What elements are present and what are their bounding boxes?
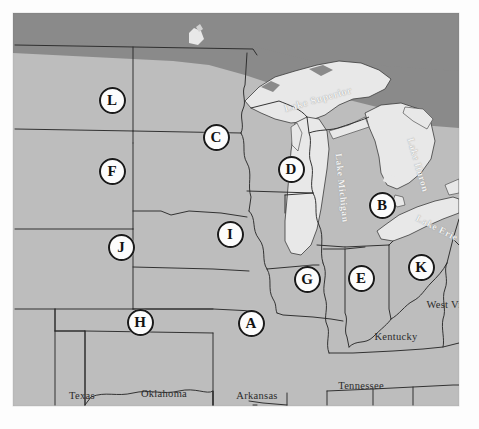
marker-h[interactable]: H bbox=[127, 309, 154, 336]
marker-j-letter: J bbox=[117, 239, 125, 254]
marker-c[interactable]: C bbox=[203, 124, 230, 151]
marker-b-letter: B bbox=[377, 197, 387, 212]
map-figure: Lake Superior Lake Michigan Lake Huron L… bbox=[0, 0, 479, 429]
marker-l-letter: L bbox=[107, 92, 117, 107]
marker-e-letter: E bbox=[356, 270, 366, 285]
label-tennessee: Tennessee bbox=[338, 380, 384, 391]
label-oklahoma: Oklahoma bbox=[141, 388, 187, 399]
marker-e[interactable]: E bbox=[348, 265, 375, 292]
marker-a-letter: A bbox=[246, 315, 257, 330]
label-arkansas: Arkansas bbox=[236, 390, 277, 401]
marker-a[interactable]: A bbox=[238, 310, 265, 337]
marker-i-letter: I bbox=[227, 226, 233, 241]
marker-c-letter: C bbox=[211, 129, 222, 144]
marker-f-letter: F bbox=[107, 163, 116, 178]
marker-l[interactable]: L bbox=[99, 87, 126, 114]
marker-k-letter: K bbox=[415, 259, 427, 274]
marker-g[interactable]: G bbox=[294, 266, 321, 293]
marker-j[interactable]: J bbox=[108, 234, 135, 261]
marker-g-letter: G bbox=[301, 271, 313, 286]
marker-d-letter: D bbox=[286, 161, 297, 176]
marker-b[interactable]: B bbox=[369, 192, 396, 219]
label-texas: Texas bbox=[69, 390, 95, 401]
map-plate[interactable]: Lake Superior Lake Michigan Lake Huron L… bbox=[13, 13, 459, 406]
marker-f[interactable]: F bbox=[99, 158, 126, 185]
marker-d[interactable]: D bbox=[278, 156, 305, 183]
label-kentucky: Kentucky bbox=[374, 331, 417, 342]
marker-h-letter: H bbox=[134, 314, 146, 329]
marker-k[interactable]: K bbox=[408, 254, 435, 281]
marker-i[interactable]: I bbox=[217, 221, 244, 248]
label-west-virginia: West Virginia bbox=[426, 299, 459, 311]
